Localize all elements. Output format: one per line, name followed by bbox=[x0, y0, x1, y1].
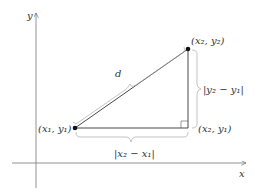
x-axis-label: x bbox=[239, 168, 245, 179]
right-angle-marker bbox=[181, 121, 188, 128]
vertical-brace bbox=[192, 50, 201, 128]
point-corner-label: (x₂, y₁) bbox=[198, 123, 232, 134]
distance-diagram: x y (x₁, y₁) (x₂, y₂) (x₂, y₁) d |x₂ − x… bbox=[0, 0, 255, 194]
y-axis-label: y bbox=[26, 10, 33, 21]
point-p1-label: (x₁, y₁) bbox=[38, 123, 72, 134]
hypotenuse-label: d bbox=[115, 68, 121, 79]
point-p2 bbox=[186, 47, 191, 52]
vertical-label: |y₂ − y₁| bbox=[203, 84, 244, 96]
horizontal-label: |x₂ − x₁| bbox=[114, 148, 155, 160]
point-p1 bbox=[73, 126, 78, 131]
horizontal-brace bbox=[76, 132, 188, 142]
hypotenuse-brace bbox=[73, 47, 185, 124]
point-p2-label: (x₂, y₂) bbox=[191, 35, 225, 46]
